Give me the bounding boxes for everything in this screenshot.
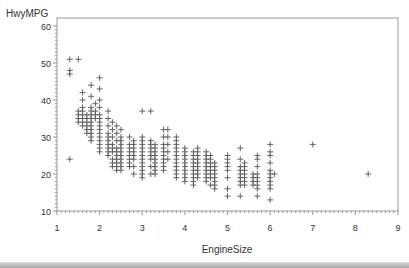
x-axis-label: EngineSize [202, 244, 253, 255]
svg-text:60: 60 [41, 22, 51, 32]
svg-text:1: 1 [54, 223, 59, 233]
window-bottom-bar [0, 262, 409, 268]
scatter-plot: HwyMPG EngineSize 102030405060 123456789 [0, 0, 409, 268]
svg-text:7: 7 [310, 223, 315, 233]
svg-text:8: 8 [353, 223, 358, 233]
plot-frame [57, 18, 398, 211]
svg-text:40: 40 [41, 96, 51, 106]
svg-text:20: 20 [41, 170, 51, 180]
svg-text:3: 3 [140, 223, 145, 233]
svg-text:6: 6 [268, 223, 273, 233]
svg-text:10: 10 [41, 207, 51, 217]
svg-text:9: 9 [395, 223, 400, 233]
svg-text:4: 4 [182, 223, 187, 233]
svg-text:5: 5 [225, 223, 230, 233]
svg-text:2: 2 [97, 223, 102, 233]
svg-text:50: 50 [41, 59, 51, 69]
y-axis-ticks: 102030405060 [41, 22, 57, 217]
data-points [67, 56, 371, 203]
y-axis-label: HwyMPG [6, 8, 48, 19]
svg-text:30: 30 [41, 133, 51, 143]
x-axis-ticks: 123456789 [54, 211, 400, 233]
